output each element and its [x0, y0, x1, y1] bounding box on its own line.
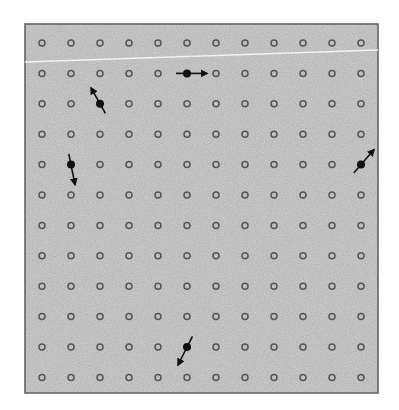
filled-dot — [183, 343, 191, 351]
filled-dot — [183, 69, 191, 77]
filled-dot — [96, 100, 104, 108]
lattice-diagram — [0, 0, 399, 410]
filled-dot — [357, 161, 365, 169]
filled-dot — [67, 161, 75, 169]
noise-texture — [26, 25, 377, 392]
